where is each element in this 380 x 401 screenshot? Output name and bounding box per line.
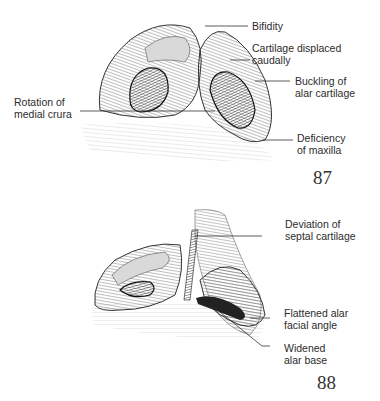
label-cartilage-displaced-caudally: Cartilage displaced caudally <box>252 42 341 66</box>
figure-88: Deviation of septal cartilage Flattened … <box>0 200 380 401</box>
label-deficiency-of-maxilla: Deficiency of maxilla <box>297 132 345 156</box>
label-deviation-of-septal-cartilage: Deviation of septal cartilage <box>285 218 356 242</box>
figure-87: Bifidity Cartilage displaced caudally Bu… <box>0 0 380 200</box>
figure-number: 88 <box>317 372 336 394</box>
label-rotation-of-medial-crura: Rotation of medial crura <box>14 96 72 120</box>
label-widened-alar-base: Widened alar base <box>284 342 327 366</box>
label-buckling-of-alar-cartilage: Buckling of alar cartilage <box>295 75 355 99</box>
label-bifidity: Bifidity <box>252 20 283 32</box>
figure-number: 87 <box>313 167 332 189</box>
label-flattened-alar-facial-angle: Flattened alar facial angle <box>284 307 348 331</box>
